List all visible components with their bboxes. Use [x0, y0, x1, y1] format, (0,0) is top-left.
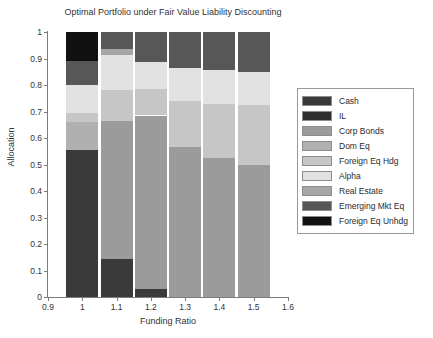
stacked-bar: [66, 32, 98, 297]
bar-segment: [203, 70, 235, 103]
bar-segment: [135, 32, 167, 62]
legend-swatch-icon: [302, 216, 332, 226]
x-tick-label: 1.1: [102, 303, 132, 312]
legend-swatch-icon: [302, 96, 332, 106]
bar-segment: [66, 113, 98, 122]
chart-figure: Optimal Portfolio under Fair Value Liabi…: [0, 0, 433, 338]
legend-item-label: Alpha: [339, 171, 361, 181]
bar-segment: [101, 90, 133, 120]
x-tick-mark: [254, 297, 255, 301]
bar-segment: [135, 89, 167, 116]
bar-segment: [203, 158, 235, 297]
y-tick-label: 0.2: [0, 240, 42, 249]
x-axis-label: Funding Ratio: [48, 316, 288, 326]
bar-segment: [169, 147, 201, 297]
x-tick-mark: [185, 297, 186, 301]
legend-item-label: IL: [339, 111, 346, 121]
x-tick-mark: [48, 297, 49, 301]
x-tick-mark: [219, 297, 220, 301]
stacked-bar: [169, 32, 201, 297]
x-tick-label: 1.6: [273, 303, 303, 312]
stacked-bar: [238, 32, 270, 297]
bar-segment: [101, 49, 133, 54]
y-tick-label: 0.3: [0, 214, 42, 223]
bar-segment: [203, 104, 235, 158]
legend-item[interactable]: Alpha: [302, 168, 409, 183]
legend-item[interactable]: Dom Eq: [302, 138, 409, 153]
legend-item[interactable]: Corp Bonds: [302, 123, 409, 138]
bar-segment: [169, 68, 201, 101]
y-tick-label: 0.1: [0, 267, 42, 276]
bar-segment: [101, 55, 133, 91]
bar-segment: [101, 121, 133, 259]
x-tick-mark: [82, 297, 83, 301]
legend-item[interactable]: Emerging Mkt Eq: [302, 198, 409, 213]
legend-item-label: Dom Eq: [339, 141, 370, 151]
x-tick-label: 1: [67, 303, 97, 312]
legend-swatch-icon: [302, 156, 332, 166]
y-tick-label: 0.9: [0, 55, 42, 64]
bar-segment: [66, 85, 98, 113]
legend-item-label: Emerging Mkt Eq: [339, 201, 404, 211]
x-tick-label: 1.2: [136, 303, 166, 312]
bar-segment: [66, 122, 98, 150]
bar-segment: [66, 150, 98, 297]
legend-swatch-icon: [302, 141, 332, 151]
legend-item[interactable]: Foreign Eq Unhdg: [302, 213, 409, 228]
bar-segment: [66, 32, 98, 61]
legend-item-label: Cash: [339, 96, 359, 106]
y-tick-label: 0.8: [0, 81, 42, 90]
bar-segment: [238, 165, 270, 298]
chart-title: Optimal Portfolio under Fair Value Liabi…: [48, 6, 298, 18]
plot-area: [48, 32, 288, 297]
bar-segment: [135, 116, 167, 290]
legend-item[interactable]: Foreign Eq Hdg: [302, 153, 409, 168]
x-tick-label: 1.4: [204, 303, 234, 312]
stacked-bar: [135, 32, 167, 297]
bar-segment: [135, 289, 167, 297]
bar-segment: [169, 32, 201, 68]
stacked-bar: [101, 32, 133, 297]
bar-segment: [169, 101, 201, 147]
legend-item-label: Real Estate: [339, 186, 383, 196]
bar-segment: [135, 62, 167, 89]
x-tick-label: 0.9: [33, 303, 63, 312]
legend-swatch-icon: [302, 186, 332, 196]
bar-segment: [66, 61, 98, 85]
legend-item-label: Foreign Eq Unhdg: [339, 216, 408, 226]
bar-segment: [101, 259, 133, 297]
x-tick-label: 1.5: [239, 303, 269, 312]
bar-segment: [203, 32, 235, 70]
y-axis-label: Allocation: [6, 92, 16, 202]
legend-swatch-icon: [302, 171, 332, 181]
legend-item-label: Foreign Eq Hdg: [339, 156, 399, 166]
legend-swatch-icon: [302, 111, 332, 121]
legend-swatch-icon: [302, 201, 332, 211]
bar-segment: [238, 105, 270, 165]
x-tick-mark: [288, 297, 289, 301]
chart-legend: CashILCorp BondsDom EqForeign Eq HdgAlph…: [297, 88, 414, 234]
x-axis-line: [47, 297, 289, 298]
x-tick-mark: [117, 297, 118, 301]
bar-segment: [238, 32, 270, 72]
x-tick-label: 1.3: [170, 303, 200, 312]
legend-item[interactable]: IL: [302, 108, 409, 123]
y-tick-label: 1: [0, 28, 42, 37]
legend-swatch-icon: [302, 126, 332, 136]
legend-item[interactable]: Real Estate: [302, 183, 409, 198]
y-tick-label: 0: [0, 293, 42, 302]
bar-segment: [238, 72, 270, 105]
x-tick-mark: [151, 297, 152, 301]
legend-item[interactable]: Cash: [302, 93, 409, 108]
stacked-bar: [203, 32, 235, 297]
legend-item-label: Corp Bonds: [339, 126, 384, 136]
bar-segment: [101, 32, 133, 49]
